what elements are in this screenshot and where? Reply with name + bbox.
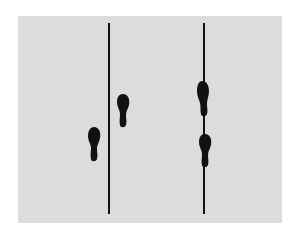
footprint-icon-right-lower [198, 133, 213, 169]
footprint-icon-right-upper [196, 80, 211, 118]
right-vertical-line [203, 23, 205, 214]
footprint-icon-left-lower [86, 126, 102, 163]
footprint-icon-left-upper [116, 93, 131, 129]
left-vertical-line [108, 23, 110, 214]
diagram-background [18, 16, 282, 223]
